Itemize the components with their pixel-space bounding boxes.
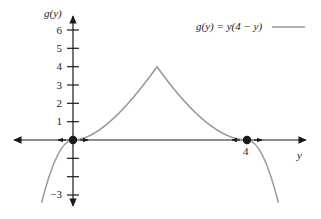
y-tick-label-5: 5 <box>44 43 62 54</box>
y-tick-label-4: 4 <box>44 61 62 72</box>
y-tick-label-6: 6 <box>44 25 62 36</box>
y-tick-label-2: 2 <box>44 98 62 109</box>
data-point-root-origin <box>69 136 77 144</box>
y-axis-label: g(y) <box>44 8 62 19</box>
y-tick-label-3: 3 <box>44 80 62 91</box>
legend-entry-label: g(y) = y(4 − y) <box>196 21 262 32</box>
data-point-root-four <box>243 136 251 144</box>
x-axis-label: y <box>297 150 302 161</box>
y-tick-label-1: 1 <box>44 116 62 127</box>
parabola-curve <box>42 67 279 203</box>
x-point-label-4: 4 <box>243 146 249 157</box>
y-tick-label-negative-3: −3 <box>38 189 62 200</box>
figure-parabola-chart: g(y) y 6 5 4 3 2 1 −3 4 g(y) = y(4 − y) <box>0 0 321 219</box>
